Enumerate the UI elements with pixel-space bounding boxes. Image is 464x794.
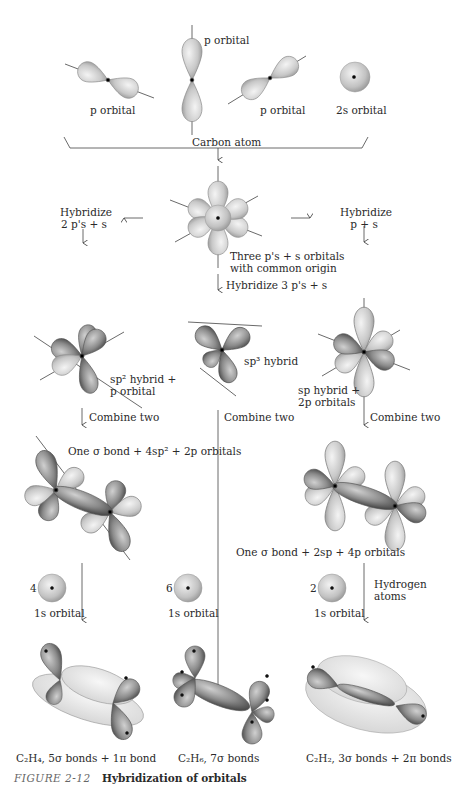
2s-orbital-label: 2s orbital: [336, 104, 387, 116]
carbon-atom-label: Carbon atom: [192, 136, 261, 148]
p-orbital-left-shape: [65, 59, 154, 102]
hydrogen-1s-center: [174, 574, 202, 602]
1s-orbital-left-label: 1s orbital: [34, 607, 85, 619]
hybridize-right-label: Hybridize p + s: [340, 206, 388, 230]
hydrogen-count-right: 2: [310, 582, 317, 594]
combine-two-center: Combine two: [224, 411, 294, 423]
p-orbital-left-label: p orbital: [90, 104, 135, 116]
three-p-s-line1: Three p's + s orbitals: [230, 250, 320, 262]
hydrogen-atoms-line2: atoms: [374, 590, 427, 602]
ethylene-caption: C₂H₄, 5σ bonds + 1π bond: [16, 752, 156, 764]
acetylene-molecule-shape: [298, 647, 433, 745]
hybridize-left-line1: Hybridize: [60, 206, 108, 218]
sp2-line1: sp² hybrid +: [110, 373, 176, 385]
1s-orbital-center-label: 1s orbital: [168, 607, 219, 619]
1s-orbital-right-label: 1s orbital: [314, 607, 365, 619]
2s-orbital-shape: [340, 62, 370, 92]
figure-title: Hybridization of orbitals: [102, 772, 247, 784]
sp-line2: 2p orbitals: [298, 396, 360, 408]
p-orbital-right-shape: [228, 53, 306, 104]
figure-number: FIGURE 2-12: [14, 772, 91, 784]
hydrogen-1s-right: [318, 574, 346, 602]
hydrogen-count-left: 4: [30, 582, 37, 594]
hybridize-center-label: Hybridize 3 p's + s: [226, 279, 327, 291]
three-p-s-line2: with common origin: [230, 262, 320, 274]
orbital-diagram-graphics: [0, 0, 464, 794]
sp2-label: sp² hybrid + p orbital: [110, 373, 176, 397]
three-p-s-label: Three p's + s orbitals with common origi…: [230, 250, 320, 274]
hydrogen-1s-left: [38, 574, 66, 602]
ethane-caption: C₂H₆, 7σ bonds: [178, 752, 259, 764]
hydrogen-atoms-label: Hydrogen atoms: [374, 578, 427, 602]
hybridize-right-line2: p + s: [340, 218, 388, 230]
p-orbital-center-shape: [182, 25, 202, 135]
combined-right-label: One σ bond + 2sp + 4p orbitals: [236, 546, 405, 558]
ethane-molecule-shape: [170, 646, 275, 744]
hydrogen-count-center: 6: [166, 582, 173, 594]
combined-left-label: One σ bond + 4sp² + 2p orbitals: [68, 445, 241, 457]
sp-label: sp hybrid + 2p orbitals: [298, 384, 360, 408]
hybridize-left-label: Hybridize 2 p's + s: [60, 206, 108, 230]
sp-line1: sp hybrid +: [298, 384, 360, 396]
combine-two-right: Combine two: [370, 411, 440, 423]
sp3-label: sp³ hybrid: [244, 355, 298, 367]
p-orbital-right-label: p orbital: [260, 104, 305, 116]
acetylene-framework-shape: [301, 441, 428, 551]
hydrogen-atoms-line1: Hydrogen: [374, 578, 427, 590]
hybridize-right-line1: Hybridize: [340, 206, 388, 218]
figure-caption: FIGURE 2-12 Hybridization of orbitals: [14, 772, 247, 784]
hybridize-left-line2: 2 p's + s: [60, 218, 108, 230]
acetylene-caption: C₂H₂, 3σ bonds + 2π bonds: [306, 752, 452, 764]
sp2-line2: p orbital: [110, 385, 176, 397]
combine-two-left: Combine two: [89, 411, 159, 423]
p-orbital-center-label: p orbital: [204, 34, 249, 46]
ethylene-molecule-shape: [27, 640, 150, 742]
